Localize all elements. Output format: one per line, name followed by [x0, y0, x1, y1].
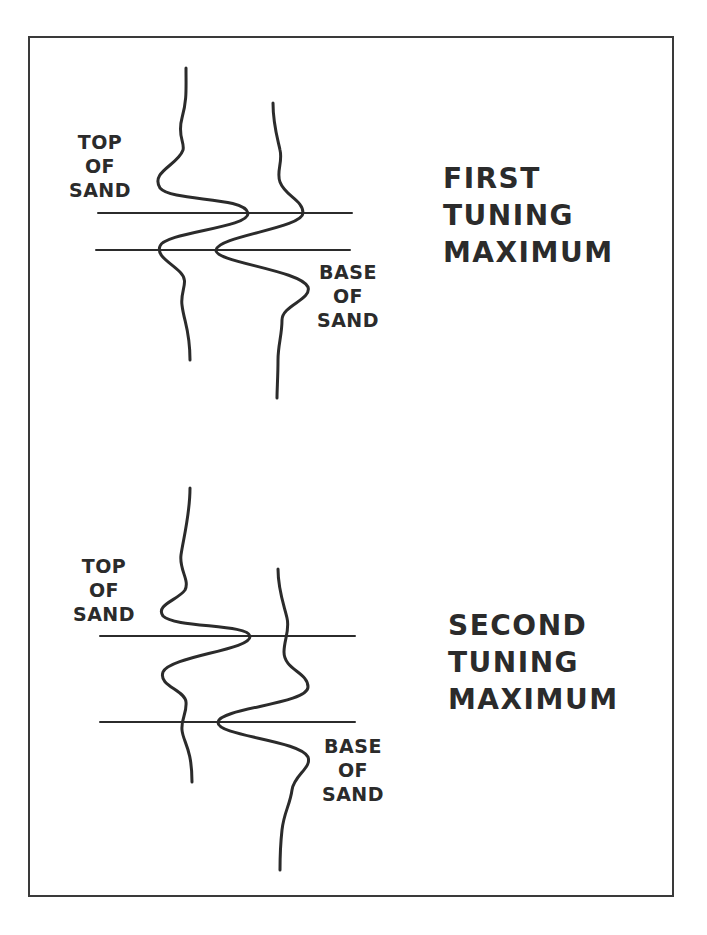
- label-line: SAND: [60, 178, 140, 202]
- title-line: MAXIMUM: [443, 234, 653, 271]
- top-of-sand-label: TOP OF SAND: [64, 554, 144, 626]
- top-of-sand-label: TOP OF SAND: [60, 130, 140, 202]
- label-line: OF: [310, 758, 396, 782]
- label-line: BASE: [305, 260, 391, 284]
- title-line: MAXIMUM: [448, 681, 668, 718]
- label-line: OF: [64, 578, 144, 602]
- second-tuning-maximum-title: SECOND TUNING MAXIMUM: [448, 607, 668, 718]
- label-line: BASE: [310, 734, 396, 758]
- title-line: FIRST: [443, 160, 653, 197]
- first-tuning-maximum-title: FIRST TUNING MAXIMUM: [443, 160, 653, 271]
- label-line: OF: [60, 154, 140, 178]
- seismic-trace-2: [218, 569, 309, 870]
- label-line: SAND: [305, 308, 391, 332]
- first-tuning-panel: [96, 68, 352, 398]
- label-line: TOP: [64, 554, 144, 578]
- label-line: SAND: [310, 782, 396, 806]
- label-line: TOP: [60, 130, 140, 154]
- base-of-sand-label: BASE OF SAND: [305, 260, 391, 332]
- title-line: TUNING: [443, 197, 653, 234]
- base-of-sand-label: BASE OF SAND: [310, 734, 396, 806]
- second-tuning-panel: [100, 488, 355, 870]
- title-line: TUNING: [448, 644, 668, 681]
- label-line: OF: [305, 284, 391, 308]
- title-line: SECOND: [448, 607, 668, 644]
- label-line: SAND: [64, 602, 144, 626]
